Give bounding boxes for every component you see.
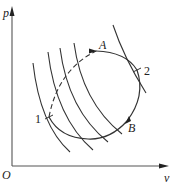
point-1-label: 1: [35, 113, 41, 125]
isotherm-right: [113, 25, 146, 93]
cycle-dashed-arc: [49, 51, 96, 117]
isotherm-3: [60, 48, 108, 142]
isotherm-4: [74, 43, 122, 134]
p-axis-arrow-icon: [10, 6, 15, 16]
point-b-label: B: [128, 122, 135, 134]
origin-label: O: [2, 169, 11, 181]
point-2-label: 2: [144, 65, 150, 77]
point-a-label: A: [99, 39, 106, 51]
v-axis-arrow-icon: [159, 164, 169, 169]
v-axis-label: v: [164, 172, 169, 184]
p-axis-label: p: [3, 7, 9, 19]
p-v-diagram: [0, 0, 182, 188]
